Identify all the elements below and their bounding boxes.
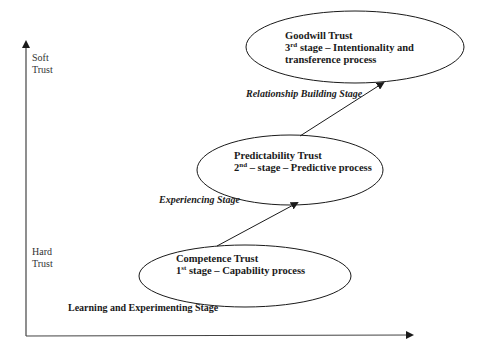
- competence-trust-stage: 1st stage – Capability process: [176, 265, 305, 277]
- predictability-trust-stage: 2nd – stage – Predictive process: [234, 162, 372, 174]
- goodwill-trust-stage: 3rd stage – Intentionality and: [285, 42, 414, 54]
- soft-trust-label-line2: Trust: [32, 64, 53, 76]
- goodwill-trust-title: Goodwill Trust: [285, 30, 414, 42]
- arrow-competence-to-predictability: [217, 203, 297, 246]
- learning-experimenting-stage-label: Learning and Experimenting Stage: [68, 302, 218, 313]
- predictability-trust-title: Predictability Trust: [234, 150, 372, 162]
- relationship-building-stage-label: Relationship Building Stage: [246, 88, 362, 99]
- hard-trust-label-line1: Hard: [32, 246, 53, 258]
- stage-description: stage – Intentionality and: [297, 42, 414, 53]
- goodwill-trust-text: Goodwill Trust 3rd stage – Intentionalit…: [285, 30, 414, 66]
- stage-description: stage – Capability process: [186, 265, 305, 276]
- goodwill-trust-stage-line2: transference process: [285, 54, 414, 66]
- ordinal-suffix: nd: [239, 161, 247, 169]
- competence-trust-text: Competence Trust 1st stage – Capability …: [176, 253, 305, 277]
- hard-trust-label: Hard Trust: [32, 246, 53, 270]
- x-axis: [26, 335, 412, 336]
- predictability-trust-text: Predictability Trust 2nd – stage – Predi…: [234, 150, 372, 174]
- experiencing-stage-label: Experiencing Stage: [159, 194, 240, 205]
- hard-trust-label-line2: Trust: [32, 258, 53, 270]
- soft-trust-label-line1: Soft: [32, 52, 53, 64]
- soft-trust-label: Soft Trust: [32, 52, 53, 76]
- competence-trust-title: Competence Trust: [176, 253, 305, 265]
- stage-description: – stage – Predictive process: [247, 162, 372, 173]
